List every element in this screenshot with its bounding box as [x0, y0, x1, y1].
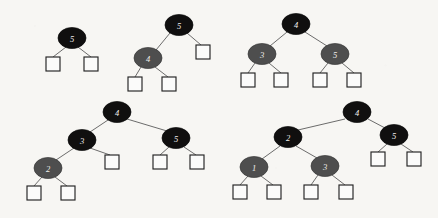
- tree-edge: [56, 148, 74, 160]
- tree-edge: [305, 32, 327, 46]
- tree-edge: [270, 32, 287, 46]
- tree-edge: [155, 67, 168, 77]
- leaf-nil-node: [128, 77, 142, 91]
- tree-edge: [269, 63, 281, 73]
- leaf-nil-node: [339, 185, 353, 199]
- leaf-nil-node: [105, 155, 119, 169]
- tree-edge: [368, 119, 385, 128]
- tree-edge: [55, 177, 67, 186]
- tree-edge: [320, 63, 328, 73]
- tree-edge: [378, 144, 387, 152]
- leaf-nil-node: [84, 57, 98, 71]
- tree-node-black: [58, 28, 86, 49]
- tree-edge: [401, 144, 413, 152]
- tree-edge: [90, 120, 108, 132]
- tree-edge: [90, 148, 110, 155]
- tree-node-black: [103, 102, 131, 123]
- tree-node-gray: [311, 156, 339, 177]
- leaf-nil-node: [233, 185, 247, 199]
- tree-edge: [296, 146, 317, 158]
- tree-edge: [311, 175, 318, 185]
- leaf-nil-node: [196, 45, 210, 59]
- tree-edge: [262, 146, 280, 159]
- tree-node-gray: [134, 48, 162, 69]
- tree-edge: [332, 175, 345, 185]
- leaf-nodes-layer: [27, 45, 421, 200]
- tree-edge: [34, 177, 42, 186]
- tree-edge: [78, 47, 91, 57]
- tree-edge: [261, 176, 273, 185]
- leaf-nil-node: [347, 73, 361, 87]
- tree-edge: [156, 33, 170, 50]
- leaf-nil-node: [46, 57, 60, 71]
- tree-node-black: [380, 125, 408, 146]
- nodes-tree-single-node: 5: [58, 28, 86, 49]
- tree-node-black: [274, 127, 302, 148]
- tree-edge: [240, 176, 248, 185]
- leaf-nil-node: [407, 152, 421, 166]
- tree-node-black: [282, 14, 310, 35]
- tree-edge: [127, 119, 167, 131]
- internal-nodes-layer: 554435435242513: [34, 14, 408, 179]
- leaf-nil-node: [304, 185, 318, 199]
- leaf-nil-node: [241, 73, 255, 87]
- tree-node-gray: [248, 44, 276, 65]
- tree-edge: [160, 147, 169, 155]
- tree-edge: [135, 67, 141, 77]
- tree-edge: [184, 147, 196, 155]
- tree-node-gray: [321, 44, 349, 65]
- tree-node-black: [68, 130, 96, 151]
- tree-node-black: [165, 15, 193, 36]
- leaf-nil-node: [267, 185, 281, 199]
- leaf-nil-node: [162, 77, 176, 91]
- tree-node-black: [162, 128, 190, 149]
- tree-node-gray: [240, 157, 268, 178]
- red-black-tree-figure: 554435435242513: [0, 0, 438, 218]
- leaf-nil-node: [27, 186, 41, 200]
- leaf-nil-node: [371, 152, 385, 166]
- tree-edge: [298, 119, 345, 130]
- leaves-tree-two-children: [241, 73, 361, 87]
- leaves-tree-single-node: [46, 57, 98, 71]
- tree-node-gray: [34, 158, 62, 179]
- nodes-tree-two-children: 435: [248, 14, 349, 65]
- tree-edge: [342, 63, 354, 73]
- tree-edge: [187, 33, 201, 45]
- tree-node-black: [343, 102, 371, 123]
- leaf-nil-node: [61, 186, 75, 200]
- leaf-nil-node: [153, 155, 167, 169]
- leaf-nil-node: [190, 155, 204, 169]
- tree-edge: [248, 63, 255, 73]
- tree-edge: [53, 47, 66, 57]
- tree-diagram-canvas: 554435435242513: [0, 0, 438, 218]
- leaf-nil-node: [274, 73, 288, 87]
- leaf-nil-node: [313, 73, 327, 87]
